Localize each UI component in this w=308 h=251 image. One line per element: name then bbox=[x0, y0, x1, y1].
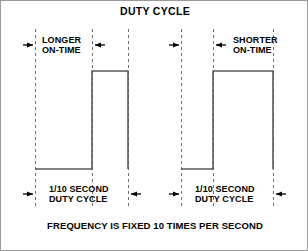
figure-caption: FREQUENCY IS FIXED 10 TIMES PER SECOND bbox=[47, 220, 263, 231]
duty-cycle-figure: DUTY CYCLE bbox=[0, 0, 308, 251]
label-longer-on-time-line2: ON-TIME bbox=[42, 45, 81, 55]
label-left-duty-line1: 1/10 SECOND bbox=[49, 184, 109, 194]
label-right-duty-line1: 1/10 SECOND bbox=[195, 184, 255, 194]
waveform-trace-left bbox=[35, 71, 128, 169]
label-shorter-on-time-line1: SHORTER bbox=[233, 35, 278, 45]
page-title: DUTY CYCLE bbox=[120, 5, 190, 17]
duty-cycle-diagram: DUTY CYCLE bbox=[1, 1, 308, 251]
label-longer-on-time-line1: LONGER bbox=[42, 35, 82, 45]
waveform-trace-right bbox=[181, 71, 273, 169]
label-right-duty-line2: DUTY CYCLE bbox=[195, 194, 253, 204]
label-shorter-on-time-line2: ON-TIME bbox=[233, 45, 272, 55]
label-left-duty-line2: DUTY CYCLE bbox=[49, 194, 107, 204]
